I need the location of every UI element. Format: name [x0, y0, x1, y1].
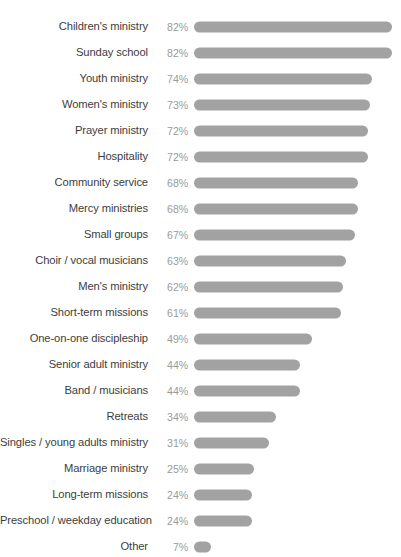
category-label: Retreats [0, 411, 148, 422]
value-label: 73% [156, 100, 188, 111]
chart-row: Sunday school82% [0, 40, 401, 66]
bar-track [194, 248, 401, 274]
bar [194, 490, 252, 501]
bar [194, 386, 300, 397]
chart-row: Hospitality72% [0, 144, 401, 170]
bar-track [194, 274, 401, 300]
bar [194, 126, 368, 137]
bar-track [194, 456, 401, 482]
chart-row: Men's ministry62% [0, 274, 401, 300]
bar [194, 516, 252, 527]
bar-track [194, 170, 401, 196]
chart-row: Other7% [0, 534, 401, 557]
bar-track [194, 66, 401, 92]
value-label: 25% [156, 464, 188, 475]
bar-track [194, 40, 401, 66]
bar-track [194, 326, 401, 352]
bar [194, 542, 211, 553]
category-label: Prayer ministry [0, 125, 148, 136]
category-label: Preschool / weekday education [0, 515, 148, 526]
value-label: 24% [156, 490, 188, 501]
chart-row: Senior adult ministry44% [0, 352, 401, 378]
bar-track [194, 352, 401, 378]
value-label: 74% [156, 74, 188, 85]
value-label: 31% [156, 438, 188, 449]
bar-track [194, 92, 401, 118]
bar-track [194, 430, 401, 456]
bar-track [194, 196, 401, 222]
category-label: Mercy ministries [0, 203, 148, 214]
chart-row: Preschool / weekday education24% [0, 508, 401, 534]
bar [194, 464, 254, 475]
bar-track [194, 508, 401, 534]
bar-track [194, 222, 401, 248]
chart-row: Community service68% [0, 170, 401, 196]
chart-row: Choir / vocal musicians63% [0, 248, 401, 274]
value-label: 82% [156, 22, 188, 33]
category-label: Community service [0, 177, 148, 188]
category-label: Women's ministry [0, 99, 148, 110]
category-label: Sunday school [0, 47, 148, 58]
category-label: Singles / young adults ministry [0, 437, 148, 448]
bar-track [194, 14, 401, 40]
category-label: Children's ministry [0, 21, 148, 32]
value-label: 72% [156, 126, 188, 137]
value-label: 82% [156, 48, 188, 59]
category-label: Youth ministry [0, 73, 148, 84]
bar-track [194, 378, 401, 404]
chart-row: Children's ministry82% [0, 14, 401, 40]
value-label: 34% [156, 412, 188, 423]
value-label: 61% [156, 308, 188, 319]
chart-row: Band / musicians44% [0, 378, 401, 404]
bar [194, 438, 269, 449]
value-label: 44% [156, 386, 188, 397]
chart-row: Prayer ministry72% [0, 118, 401, 144]
value-label: 68% [156, 204, 188, 215]
value-label: 68% [156, 178, 188, 189]
bar [194, 178, 358, 189]
chart-row: Retreats34% [0, 404, 401, 430]
category-label: Choir / vocal musicians [0, 255, 148, 266]
value-label: 44% [156, 360, 188, 371]
category-label: Marriage ministry [0, 463, 148, 474]
chart-row: Small groups67% [0, 222, 401, 248]
value-label: 49% [156, 334, 188, 345]
bar [194, 334, 312, 345]
bar [194, 256, 346, 267]
category-label: Band / musicians [0, 385, 148, 396]
value-label: 72% [156, 152, 188, 163]
chart-row: Mercy ministries68% [0, 196, 401, 222]
value-label: 62% [156, 282, 188, 293]
chart-row: Marriage ministry25% [0, 456, 401, 482]
bar [194, 308, 341, 319]
bar [194, 152, 368, 163]
bar-track [194, 144, 401, 170]
category-label: Men's ministry [0, 281, 148, 292]
chart-row: Women's ministry73% [0, 92, 401, 118]
bar [194, 48, 392, 59]
bar [194, 230, 355, 241]
chart-row: Singles / young adults ministry31% [0, 430, 401, 456]
chart-row: Youth ministry74% [0, 66, 401, 92]
bar-track [194, 118, 401, 144]
bar [194, 282, 343, 293]
bar-track [194, 404, 401, 430]
bar-track [194, 482, 401, 508]
category-label: Small groups [0, 229, 148, 240]
bar-track [194, 300, 401, 326]
chart-row: Long-term missions24% [0, 482, 401, 508]
category-label: Hospitality [0, 151, 148, 162]
category-label: One-on-one discipleship [0, 333, 148, 344]
category-label: Long-term missions [0, 489, 148, 500]
category-label: Other [0, 541, 148, 552]
chart-row: Short-term missions61% [0, 300, 401, 326]
category-label: Short-term missions [0, 307, 148, 318]
value-label: 67% [156, 230, 188, 241]
value-label: 63% [156, 256, 188, 267]
category-label: Senior adult ministry [0, 359, 148, 370]
bar [194, 100, 370, 111]
bar [194, 360, 300, 371]
chart-row: One-on-one discipleship49% [0, 326, 401, 352]
bar [194, 412, 276, 423]
